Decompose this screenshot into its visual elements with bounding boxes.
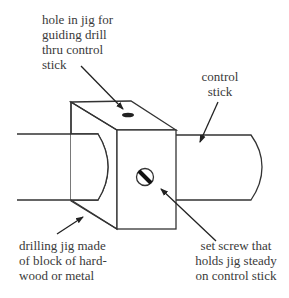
hole-label-line: hole in jig for (42, 12, 113, 27)
hole-label: hole in jig for guiding drill thru contr… (42, 12, 113, 72)
control-stick-right (176, 135, 262, 200)
control-stick-label-line: control (195, 69, 245, 84)
jig-label-line: wood or metal (19, 268, 107, 283)
set-screw-label-line: on control stick (188, 268, 284, 283)
jig-label-line: of block of hard- (19, 253, 107, 268)
set-screw-label-line: holds jig steady (188, 253, 284, 268)
jig-label: drilling jig made of block of hard- wood… (19, 238, 107, 283)
set-screw-label: set screw that holds jig steady on contr… (188, 238, 284, 283)
control-stick-label: control stick (195, 69, 245, 99)
drill-hole-icon (122, 113, 134, 118)
hole-label-line: stick (42, 57, 113, 72)
control-stick-label-line: stick (195, 84, 245, 99)
jig-label-line: drilling jig made (19, 238, 107, 253)
hole-label-line: guiding drill (42, 27, 113, 42)
set-screw-label-line: set screw that (188, 238, 284, 253)
hole-label-line: thru control (42, 42, 113, 57)
